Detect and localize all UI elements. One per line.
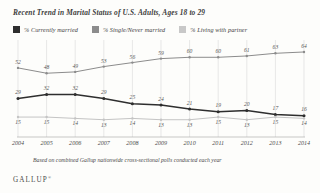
data-value-label: 13 [101,122,107,128]
data-value-label: 14 [130,120,136,126]
data-value-label: 17 [273,105,279,111]
data-point [45,72,47,74]
data-point [188,119,190,121]
data-point [74,93,77,96]
x-axis-label-2012: 2012 [241,140,253,146]
data-value-label: 60 [187,48,193,54]
data-value-label: 14 [72,120,78,126]
data-point [103,65,105,67]
chart-svg: 5248495356596060616364293232292524211920… [0,38,320,142]
data-point [45,116,47,118]
data-point [303,114,306,117]
legend-label-living-with-partner: % Living with partner [190,26,247,33]
chart-plot-area: 5248495356596060616364293232292524211920… [0,38,320,142]
data-value-label: 15 [15,119,21,125]
legend-swatch-currently-married [13,26,20,33]
data-point [274,52,276,54]
data-point [245,109,248,112]
data-value-label: 21 [187,100,193,106]
data-point [246,119,248,121]
data-value-label: 29 [15,89,21,95]
data-point [188,108,191,111]
data-point [74,71,76,73]
data-point [217,56,219,58]
data-value-label: 13 [158,122,164,128]
registered-trademark-icon: ® [48,175,52,180]
x-axis-label-2005: 2005 [41,140,53,146]
data-value-label: 59 [158,50,164,56]
x-axis-label-2006: 2006 [69,140,81,146]
data-point [17,97,20,100]
data-value-label: 25 [130,94,136,100]
legend-swatch-single-never-married [92,26,99,33]
data-point [188,56,190,58]
x-axis-label-2014: 2014 [298,140,310,146]
legend-item-single-never-married: % Single/Never married [92,26,165,33]
chart-footnote: Based on combined Gallup nationwide cros… [33,157,222,163]
data-value-label: 61 [244,47,250,53]
data-value-label: 52 [15,59,21,65]
gallup-chart-card: Recent Trend in Marital Status of U.S. A… [0,0,320,193]
data-point [17,67,19,69]
data-point [217,110,220,113]
legend-item-living-with-partner: % Living with partner [179,26,247,33]
gallup-logo: GALLUP® [13,175,52,184]
data-point [217,116,219,118]
data-point [303,117,305,119]
data-value-label: 56 [130,54,136,60]
data-point [160,57,162,59]
data-value-label: 24 [158,96,164,102]
data-value-label: 13 [244,122,250,128]
data-point [246,55,248,57]
x-axis-label-2013: 2013 [269,140,281,146]
legend-item-currently-married: % Currently married [13,26,78,33]
x-axis-label-2011: 2011 [212,140,224,146]
data-value-label: 53 [101,58,107,64]
data-value-label: 32 [71,85,78,91]
legend-swatch-living-with-partner [179,26,186,33]
legend-label-single-never-married: % Single/Never married [103,26,165,33]
x-axis-label-2007: 2007 [98,140,110,146]
data-value-label: 32 [43,85,50,91]
chart-title: Recent Trend in Marital Status of U.S. A… [13,8,205,17]
x-axis-label-2008: 2008 [126,140,138,146]
x-axis-label-2010: 2010 [184,140,196,146]
data-point [160,104,163,107]
data-value-label: 15 [44,119,50,125]
data-value-label: 48 [44,64,50,70]
data-point [303,51,305,53]
data-point [131,102,134,105]
data-value-label: 15 [215,119,221,125]
chart-legend: % Currently married % Single/Never marri… [13,26,261,33]
data-point [131,117,133,119]
legend-label-currently-married: % Currently married [24,26,78,33]
data-point [103,119,105,121]
data-value-label: 60 [215,48,221,54]
data-point [131,61,133,63]
data-point [274,116,276,118]
x-axis-label-2004: 2004 [12,140,24,146]
data-value-label: 49 [72,63,78,69]
data-point [274,113,277,116]
data-value-label: 19 [215,102,221,108]
data-value-label: 15 [273,119,279,125]
data-value-label: 14 [301,120,307,126]
x-axis-labels: 2004200520062007200820092010201120122013… [0,140,320,152]
data-value-label: 16 [301,106,307,112]
data-value-label: 64 [301,43,307,49]
gallup-logo-text: GALLUP [13,176,48,184]
data-point [102,97,105,100]
data-value-label: 29 [101,89,107,95]
data-value-label: 63 [273,44,279,50]
data-point [45,93,48,96]
data-point [74,117,76,119]
data-point [17,116,19,118]
x-axis-label-2009: 2009 [155,140,167,146]
data-value-label: 13 [187,122,193,128]
data-point [160,119,162,121]
data-value-label: 20 [244,101,250,107]
